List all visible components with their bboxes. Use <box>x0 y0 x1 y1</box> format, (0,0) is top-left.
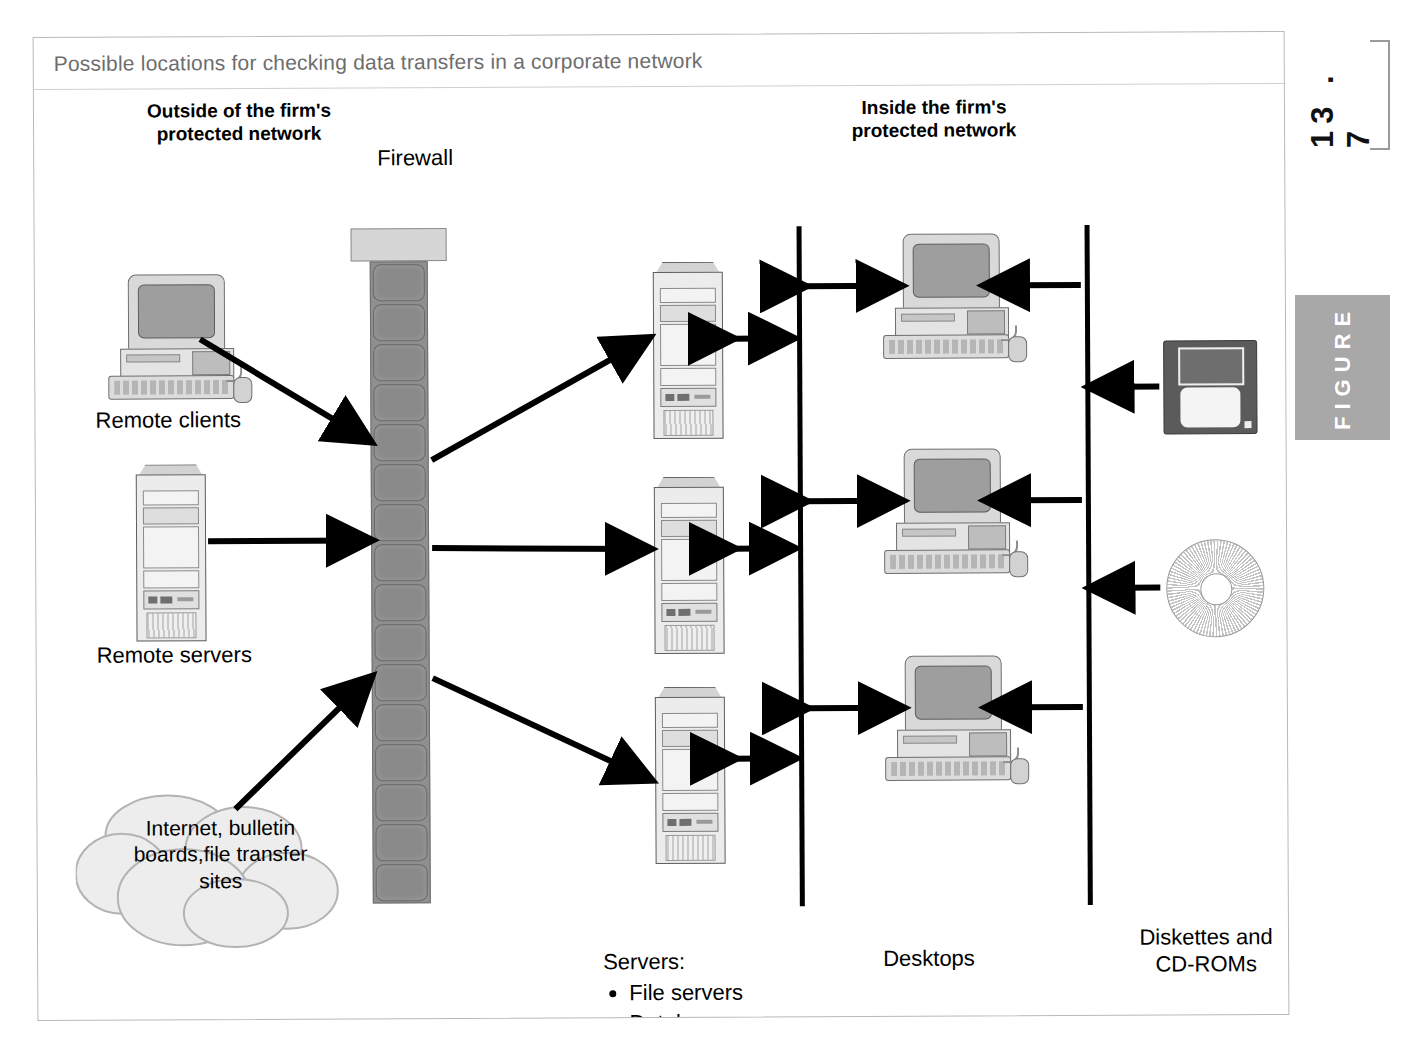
tower-bay <box>660 368 716 386</box>
tower-bay <box>661 539 717 581</box>
tower-front-panel <box>660 388 716 407</box>
figure-word-label: FIGURE <box>1295 295 1390 440</box>
media-label: Diskettes and CD-ROMs <box>1116 924 1288 979</box>
firewall-brick <box>373 264 425 301</box>
remote-clients-label: Remote clients <box>95 407 241 435</box>
firewall-brick <box>375 824 427 861</box>
tower-bay <box>661 583 717 601</box>
tower-bay <box>662 749 718 791</box>
firewall-brick <box>373 384 425 421</box>
diskette-notch <box>1244 421 1251 428</box>
firewall-brick <box>374 584 426 621</box>
servers-list: File servers Database servers Print serv… <box>603 978 802 1020</box>
servers-heading: Servers: <box>603 946 802 976</box>
internet-cloud-icon: Internet, bulletin boards,file transfer … <box>75 786 356 955</box>
mouse-icon <box>233 377 252 403</box>
firewall-brick <box>374 544 426 581</box>
internet-cloud-label: Internet, bulletin boards,file transfer … <box>125 815 315 895</box>
mouse-icon <box>1008 336 1027 362</box>
mouse-icon <box>1010 758 1029 784</box>
tower-vent <box>146 612 196 638</box>
desktop-pc-icon <box>877 655 1028 781</box>
pc-drive-slot <box>126 354 180 362</box>
tower-bay <box>660 324 716 366</box>
arrow-firewall-to-server-2 <box>432 547 648 550</box>
pc-drive-slot <box>902 529 956 537</box>
firewall-brick <box>374 504 426 541</box>
tower-bay <box>661 520 717 537</box>
figure-number-bracket <box>1370 40 1390 150</box>
diskette-shutter <box>1178 347 1244 385</box>
remote-servers-label: Remote servers <box>97 642 252 670</box>
tower-bay <box>660 305 716 322</box>
firewall-brick <box>374 424 426 461</box>
keyboard-icon <box>885 756 1011 781</box>
firewall-body <box>370 261 431 903</box>
tower-bay <box>143 526 199 568</box>
diagram-canvas: Outside of the firm's protected network … <box>34 84 1289 1020</box>
figure-frame: Possible locations for checking data tra… <box>33 31 1290 1021</box>
inside-boundary-line-left <box>797 226 805 906</box>
pc-drive-slot <box>901 314 955 322</box>
monitor-screen <box>915 665 992 719</box>
firewall-brick <box>375 664 427 701</box>
figure-number: 13 . 7 <box>1318 38 1364 148</box>
figure-title-bar: Possible locations for checking data tra… <box>34 32 1284 90</box>
tower-bay <box>143 490 199 505</box>
cdrom-icon <box>1166 539 1264 637</box>
firewall-column <box>370 228 431 903</box>
arrow-firewall-to-server-1 <box>431 339 648 460</box>
mouse-icon <box>1009 551 1028 577</box>
remote-client-pc-icon <box>100 274 251 400</box>
tower-front-panel <box>662 813 718 832</box>
tower-bay <box>662 730 718 747</box>
tower-front-panel <box>661 603 717 622</box>
pc-base-right <box>969 732 1007 756</box>
firewall-brick <box>374 624 426 661</box>
pc-base-right <box>968 525 1006 549</box>
internal-server-tower-icon <box>653 262 722 437</box>
tower-bay <box>660 288 716 303</box>
internal-server-tower-icon <box>655 687 724 862</box>
tower-vent <box>666 835 716 861</box>
arrow-server-to-firewall <box>208 540 369 541</box>
list-item: File servers <box>629 978 802 1008</box>
tower-vent <box>664 625 714 651</box>
keyboard-icon <box>883 334 1009 359</box>
firewall-brick <box>373 304 425 341</box>
diskette-label-area <box>1180 387 1240 427</box>
internal-server-tower-icon <box>654 477 723 652</box>
outside-zone-label: Outside of the firm's protected network <box>89 98 389 146</box>
figure-title: Possible locations for checking data tra… <box>54 49 703 76</box>
keyboard-icon <box>108 375 234 400</box>
diskette-icon <box>1163 340 1257 434</box>
desktops-label: Desktops <box>883 945 975 972</box>
monitor-screen <box>914 458 991 512</box>
desktop-pc-icon <box>876 448 1027 574</box>
arrow-firewall-to-server-3 <box>433 677 649 780</box>
pc-drive-slot <box>903 736 957 744</box>
tower-front-panel <box>143 590 199 609</box>
pc-base-right <box>967 310 1005 334</box>
servers-note: Servers: File servers Database servers P… <box>603 946 802 1020</box>
tower-bay <box>661 503 717 518</box>
tower-bay <box>662 793 718 811</box>
firewall-brick <box>375 704 427 741</box>
firewall-brick <box>375 744 427 781</box>
remote-server-tower-icon <box>136 464 205 639</box>
tower-vent <box>663 410 713 436</box>
firewall-cap <box>351 228 447 261</box>
tower-bay <box>143 507 199 524</box>
firewall-brick <box>376 864 428 901</box>
firewall-brick <box>373 344 425 381</box>
keyboard-icon <box>884 549 1010 574</box>
firewall-brick <box>374 464 426 501</box>
tower-bay <box>143 570 199 588</box>
desktop-pc-icon <box>875 233 1026 359</box>
cdrom-hole <box>1200 573 1232 605</box>
monitor-screen <box>913 243 990 297</box>
tower-bay <box>662 713 718 728</box>
monitor-screen <box>138 284 215 338</box>
pc-base-right <box>192 351 230 375</box>
firewall-brick <box>375 784 427 821</box>
